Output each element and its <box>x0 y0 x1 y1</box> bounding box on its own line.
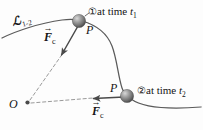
force-label-2: →Fc <box>92 105 104 121</box>
circled-number-1-icon: ① <box>88 7 97 17</box>
force-subscript-1: c <box>52 37 56 46</box>
force-vector-1 <box>62 26 79 55</box>
state-2-annotation: ②at time t2 <box>137 85 186 99</box>
vector-arrow-icon-1: → <box>43 26 53 31</box>
circled-number-2-icon: ② <box>137 86 146 96</box>
particle-sphere-1 <box>72 14 85 27</box>
origin-marker <box>25 100 29 104</box>
force-subscript-2: c <box>100 111 104 120</box>
force-symbol-1: →F <box>44 31 52 43</box>
state-2-time-subscript: 2 <box>182 90 186 99</box>
force-label-1: →Fc <box>44 31 56 47</box>
force-symbol-2: →F <box>92 105 100 117</box>
point-label-p2: P <box>110 82 117 94</box>
origin-label: O <box>9 98 18 110</box>
state-2-text: at time <box>146 84 179 96</box>
radius-line-upper <box>30 56 61 100</box>
radius-line-lower <box>31 98 93 103</box>
state-1-time-subscript: 1 <box>133 11 137 20</box>
vector-arrow-icon-2: → <box>91 100 101 105</box>
particle-sphere-2 <box>120 89 133 102</box>
point-label-p1: P <box>86 24 93 36</box>
state-1-text: at time <box>97 5 130 17</box>
state-1-annotation: ①at time t1 <box>88 6 137 20</box>
central-force-diagram: ℒ1-2 ①at time t1 ②at time t2 P P O →Fc →… <box>0 0 203 130</box>
